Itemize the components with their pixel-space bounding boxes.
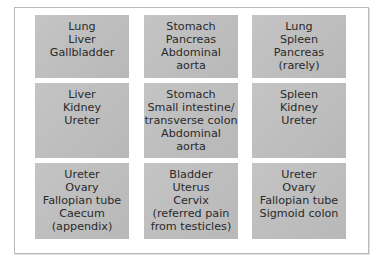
- cell-line: Uterus: [173, 181, 210, 194]
- cell-line: Small intestine/: [147, 101, 234, 114]
- cell-line: Kidney: [280, 101, 318, 114]
- cell-line: (referred pain: [153, 207, 230, 220]
- cell-line: Spleen: [280, 88, 318, 101]
- cell-line: Liver: [68, 88, 95, 101]
- cell-line: Stomach: [166, 88, 215, 101]
- cell-line: Abdominal: [161, 46, 221, 59]
- cell-right-upper-quadrant: Lung Liver Gallbladder: [35, 15, 129, 78]
- cell-line: Ureter: [64, 114, 99, 127]
- cell-line: aorta: [176, 140, 206, 153]
- cell-right-lumbar: Liver Kidney Ureter: [35, 83, 129, 158]
- cell-line: Lung: [68, 20, 95, 33]
- cell-line: Liver: [68, 33, 95, 46]
- cell-line: (rarely): [278, 59, 319, 72]
- cell-left-iliac: Ureter Ovary Fallopian tube Sigmoid colo…: [252, 163, 346, 239]
- cell-line: Kidney: [63, 101, 101, 114]
- cell-line: Pancreas: [274, 46, 324, 59]
- cell-line: (appendix): [52, 220, 113, 233]
- cell-left-upper-quadrant: Lung Spleen Pancreas (rarely): [252, 15, 346, 78]
- cell-line: Ovary: [65, 181, 99, 194]
- cell-epigastric: Stomach Pancreas Abdominal aorta: [144, 15, 238, 78]
- cell-right-iliac: Ureter Ovary Fallopian tube Caecum (appe…: [35, 163, 129, 239]
- cell-line: aorta: [176, 59, 206, 72]
- cell-line: Spleen: [280, 33, 318, 46]
- cell-suprapubic: Bladder Uterus Cervix (referred pain fro…: [144, 163, 238, 239]
- cell-line: Fallopian tube: [43, 194, 122, 207]
- cell-line: Gallbladder: [50, 46, 115, 59]
- cell-line: Bladder: [169, 168, 212, 181]
- cell-line: transverse colon: [144, 114, 237, 127]
- cell-line: Fallopian tube: [260, 194, 339, 207]
- cell-line: Stomach: [166, 20, 215, 33]
- cell-left-lumbar: Spleen Kidney Ureter: [252, 83, 346, 158]
- cell-line: from testicles): [151, 220, 232, 233]
- cell-umbilical: Stomach Small intestine/ transverse colo…: [144, 83, 238, 158]
- cell-line: Pancreas: [166, 33, 216, 46]
- cell-line: Lung: [285, 20, 312, 33]
- cell-line: Ureter: [281, 168, 316, 181]
- cell-line: Abdominal: [161, 127, 221, 140]
- cell-line: Ureter: [281, 114, 316, 127]
- cell-line: Sigmoid colon: [260, 207, 339, 220]
- cell-line: Ureter: [64, 168, 99, 181]
- cell-line: Caecum: [59, 207, 105, 220]
- cell-line: Cervix: [173, 194, 209, 207]
- cell-line: Ovary: [282, 181, 316, 194]
